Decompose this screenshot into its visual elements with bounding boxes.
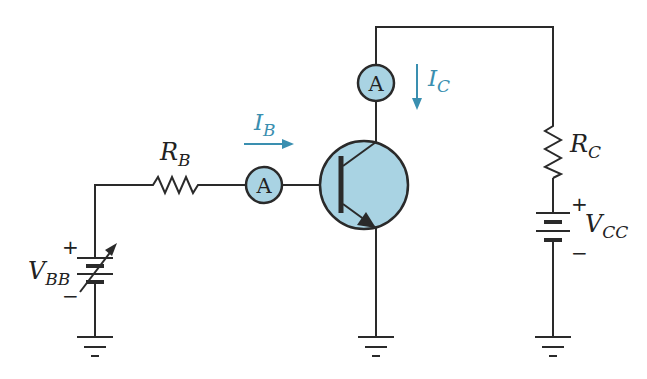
battery-vcc: + − xyxy=(536,192,588,265)
ammeter-collector-symbol: A xyxy=(367,72,384,96)
ic-label: IC xyxy=(427,65,450,96)
vcc-label: VCC xyxy=(585,210,628,242)
resistor-rb xyxy=(148,177,203,193)
vbb-plus: + xyxy=(62,235,79,259)
arrow-down-icon xyxy=(412,98,422,110)
transistor-circuit-diagram: RB RC A A IB IC xyxy=(0,0,647,379)
ammeter-base-symbol: A xyxy=(255,174,272,198)
resistor-rc xyxy=(545,122,561,178)
ib-label: IB xyxy=(253,109,276,140)
variable-arrow-icon xyxy=(105,243,117,256)
rb-label: RB xyxy=(159,138,191,170)
rc-label: RC xyxy=(569,130,601,162)
current-ic: IC xyxy=(412,64,450,110)
ammeter-base: A xyxy=(246,167,282,203)
ammeter-collector: A xyxy=(358,65,394,101)
ground-icon xyxy=(77,337,113,356)
vcc-minus: − xyxy=(571,241,588,265)
current-ib: IB xyxy=(244,109,294,149)
arrow-right-icon xyxy=(282,139,294,149)
ground-icon xyxy=(535,337,571,356)
ground-icon xyxy=(358,337,394,356)
vbb-label: VBB xyxy=(28,257,70,289)
npn-transistor xyxy=(320,141,408,229)
